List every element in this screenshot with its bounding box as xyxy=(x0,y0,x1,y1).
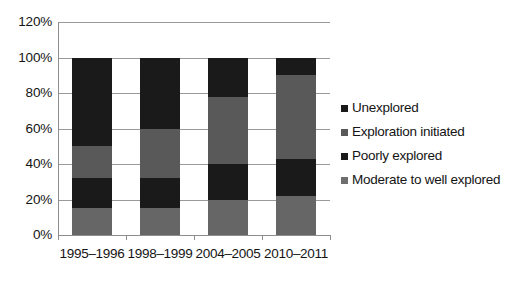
x-tick-label: 2010–2011 xyxy=(254,246,338,261)
legend-swatch-icon xyxy=(341,177,348,184)
x-tick-mark xyxy=(58,235,59,240)
y-axis-line xyxy=(58,22,59,235)
legend-label: Exploration initiated xyxy=(352,125,465,139)
y-tick-label: 100% xyxy=(6,51,52,65)
y-tick-label: 0% xyxy=(6,228,52,242)
y-tick-label: 120% xyxy=(6,15,52,29)
legend-swatch-icon xyxy=(341,105,348,112)
bar-segment[interactable] xyxy=(140,58,180,129)
x-tick-mark xyxy=(126,235,127,240)
x-tick-mark xyxy=(194,235,195,240)
bar-column[interactable] xyxy=(208,58,248,236)
x-tick-mark xyxy=(330,235,331,240)
bar-segment[interactable] xyxy=(208,164,248,200)
bar-segment[interactable] xyxy=(276,196,316,235)
bar-segment[interactable] xyxy=(140,178,180,208)
gridline xyxy=(58,22,330,23)
bar-segment[interactable] xyxy=(72,146,112,178)
y-tick-label: 80% xyxy=(6,86,52,100)
bar-segment[interactable] xyxy=(208,58,248,97)
legend-swatch-icon xyxy=(341,129,348,136)
legend-item[interactable]: Moderate to well explored xyxy=(341,168,521,192)
bar-column[interactable] xyxy=(72,58,112,236)
bar-column[interactable] xyxy=(276,58,316,236)
chart-legend: UnexploredExploration initiatedPoorly ex… xyxy=(341,96,521,192)
bar-segment[interactable] xyxy=(208,200,248,236)
bar-segment[interactable] xyxy=(72,208,112,235)
y-axis-labels: 120%100%80%60%40%20%0% xyxy=(6,0,52,284)
bar-segment[interactable] xyxy=(208,97,248,164)
bar-segment[interactable] xyxy=(72,178,112,208)
legend-label: Unexplored xyxy=(352,101,419,115)
y-tick-label: 20% xyxy=(6,193,52,207)
legend-swatch-icon xyxy=(341,153,348,160)
legend-item[interactable]: Unexplored xyxy=(341,96,521,120)
y-tick-label: 60% xyxy=(6,122,52,136)
bar-segment[interactable] xyxy=(72,58,112,147)
bar-segment[interactable] xyxy=(276,159,316,196)
stacked-bar-chart: 120%100%80%60%40%20%0% 1995–19961998–199… xyxy=(0,0,525,284)
legend-label: Moderate to well explored xyxy=(352,173,500,187)
bar-segment[interactable] xyxy=(140,208,180,235)
legend-item[interactable]: Exploration initiated xyxy=(341,120,521,144)
legend-item[interactable]: Poorly explored xyxy=(341,144,521,168)
x-tick-mark xyxy=(262,235,263,240)
bar-column[interactable] xyxy=(140,58,180,236)
legend-label: Poorly explored xyxy=(352,149,442,163)
bar-segment[interactable] xyxy=(140,129,180,179)
bar-segment[interactable] xyxy=(276,75,316,158)
bar-segment[interactable] xyxy=(276,58,316,76)
y-tick-label: 40% xyxy=(6,157,52,171)
plot-area xyxy=(58,22,330,235)
